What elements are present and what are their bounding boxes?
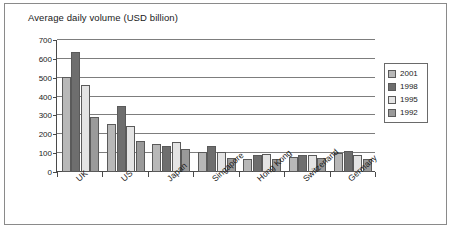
bar: [162, 146, 171, 172]
bar-group: [107, 40, 145, 172]
y-tick-label-600: 600: [39, 54, 52, 63]
legend-item: 1995: [388, 93, 424, 106]
legend-swatch-icon: [388, 70, 396, 78]
bar: [298, 155, 307, 172]
chart-legend: 2001199819951992: [384, 63, 428, 123]
y-tick-label-200: 200: [39, 130, 52, 139]
y-axis-tick-labels: 0100200300400500600700: [18, 40, 52, 172]
legend-label: 2001: [400, 69, 418, 78]
y-tick-label-0: 0: [48, 168, 52, 177]
y-tick-mark-0: [53, 172, 57, 173]
bar-group: [62, 40, 100, 172]
bar: [289, 157, 298, 172]
bar-group: [152, 40, 190, 172]
y-tick-mark-400: [53, 97, 57, 98]
legend-swatch-icon: [388, 83, 396, 91]
legend-swatch-icon: [388, 109, 396, 117]
chart-figure: Average daily volume (USD billion) 01002…: [0, 0, 452, 232]
y-tick-mark-700: [53, 40, 57, 41]
bar: [152, 144, 161, 172]
bar: [117, 106, 126, 172]
y-tick-mark-500: [53, 78, 57, 79]
legend-item: 2001: [388, 67, 424, 80]
y-tick-mark-200: [53, 134, 57, 135]
y-tick-mark-600: [53, 59, 57, 60]
y-tick-mark-100: [53, 153, 57, 154]
legend-swatch-icon: [388, 96, 396, 104]
y-tick-label-700: 700: [39, 36, 52, 45]
legend-label: 1992: [400, 108, 418, 117]
bar: [243, 159, 252, 172]
legend-item: 1992: [388, 106, 424, 119]
bar: [207, 146, 216, 172]
bar-group: [334, 40, 372, 172]
y-tick-mark-300: [53, 115, 57, 116]
legend-label: 1998: [400, 82, 418, 91]
x-axis-tick-labels: UKUSJapanSingaporeHong KongSwitzerlandGe…: [57, 176, 387, 224]
y-tick-label-300: 300: [39, 111, 52, 120]
bar: [126, 126, 135, 172]
y-tick-label-100: 100: [39, 149, 52, 158]
bar: [81, 85, 90, 172]
bar: [62, 77, 71, 172]
bar: [71, 52, 80, 172]
bar-group: [289, 40, 327, 172]
chart-title: Average daily volume (USD billion): [28, 12, 178, 23]
legend-item: 1998: [388, 80, 424, 93]
bar-group: [243, 40, 281, 172]
legend-label: 1995: [400, 95, 418, 104]
bar: [344, 151, 353, 172]
bar: [198, 152, 207, 172]
bar: [90, 117, 99, 172]
y-tick-label-500: 500: [39, 73, 52, 82]
bar-group: [198, 40, 236, 172]
bar: [136, 141, 145, 172]
bar: [107, 124, 116, 172]
y-tick-label-400: 400: [39, 92, 52, 101]
